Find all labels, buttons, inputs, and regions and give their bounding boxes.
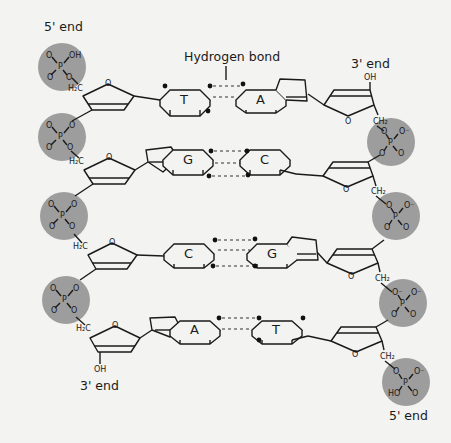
svg-text:T: T — [271, 322, 280, 337]
svg-text:O: O — [410, 310, 416, 319]
base-adenine-4: A — [150, 316, 221, 344]
phosphate-group-right-3: O⁻ O⁻ P O O — [379, 279, 427, 327]
svg-text:O: O — [343, 185, 349, 194]
svg-text:A: A — [256, 92, 265, 107]
svg-text:CH₂: CH₂ — [380, 352, 395, 361]
svg-text:O: O — [69, 121, 75, 130]
phosphate-group-left-4: O O P O O — [42, 276, 90, 324]
sugar-right-3: O CH₂ — [316, 240, 392, 292]
svg-text:H₂C: H₂C — [73, 242, 88, 251]
svg-text:P: P — [393, 212, 398, 221]
svg-text:O: O — [352, 350, 358, 359]
base-pair-4: A T — [150, 316, 308, 344]
svg-text:CH₂: CH₂ — [375, 274, 390, 283]
svg-text:O: O — [348, 272, 354, 281]
svg-text:O⁻: O⁻ — [392, 288, 403, 297]
label-3-prime-end-top-right: 3' end — [351, 56, 390, 71]
svg-text:P: P — [388, 138, 393, 147]
label-5-prime-end-top-left: 5' end — [44, 19, 83, 34]
svg-text:O: O — [67, 143, 73, 152]
svg-text:H₂C: H₂C — [68, 84, 83, 93]
sugar-left-2: H₂C O — [69, 151, 148, 196]
base-cytosine-3: C — [164, 238, 217, 269]
svg-text:P: P — [58, 132, 63, 141]
svg-text:O: O — [46, 51, 52, 60]
svg-text:O: O — [109, 238, 115, 247]
svg-text:O⁻: O⁻ — [414, 367, 425, 376]
svg-text:OH: OH — [94, 365, 106, 374]
svg-text:C: C — [260, 152, 269, 167]
svg-text:O: O — [46, 121, 52, 130]
svg-text:O: O — [112, 321, 118, 330]
svg-text:O: O — [48, 200, 54, 209]
base-thymine-1: T — [160, 84, 212, 116]
base-pair-3: C G — [164, 237, 318, 269]
svg-text:HO: HO — [388, 389, 400, 398]
svg-text:G: G — [267, 246, 277, 261]
label-hydrogen-bond: Hydrogen bond — [184, 49, 280, 64]
svg-text:A: A — [190, 322, 199, 337]
sugar-right-1: O OH CH₂ — [308, 73, 388, 131]
svg-text:CH₂: CH₂ — [373, 117, 388, 126]
svg-text:O: O — [345, 117, 351, 126]
base-thymine-4: T — [252, 316, 308, 344]
svg-text:CH₂: CH₂ — [371, 187, 386, 196]
sugar-left-3: H₂C O — [73, 234, 164, 280]
svg-text:O: O — [403, 223, 409, 232]
sugar-left-4: H₂C O OH — [76, 317, 152, 374]
svg-text:G: G — [183, 152, 193, 167]
phosphate-group-left-2: O O P O O — [38, 113, 86, 161]
svg-text:H₂C: H₂C — [69, 157, 84, 166]
label-3-prime-end-bottom-left: 3' end — [80, 378, 119, 393]
svg-text:O: O — [71, 306, 77, 315]
base-adenine-1: A — [236, 79, 307, 113]
base-cytosine-2: C — [240, 149, 296, 178]
svg-text:O: O — [106, 153, 112, 162]
base-pair-1: T A — [160, 79, 307, 116]
svg-text:P: P — [403, 378, 408, 387]
dna-diagram: O OH P O O O O P O O O O P O O O O P — [0, 0, 451, 443]
svg-text:H₂C: H₂C — [76, 324, 91, 333]
svg-text:C: C — [184, 246, 193, 261]
svg-text:T: T — [179, 92, 188, 107]
label-5-prime-end-bottom-right: 5' end — [389, 408, 428, 423]
svg-text:O⁻: O⁻ — [411, 288, 422, 297]
sugar-left-1: H₂C O — [68, 78, 160, 121]
svg-text:OH: OH — [364, 73, 376, 82]
sugar-right-4: O CH₂ — [308, 320, 395, 369]
svg-text:P: P — [400, 299, 405, 308]
svg-text:O: O — [412, 389, 418, 398]
svg-text:O: O — [50, 284, 56, 293]
sugar-right-2: O CH₂ — [296, 155, 386, 204]
svg-text:O: O — [73, 284, 79, 293]
base-guanine-3: G — [247, 237, 318, 269]
svg-text:OH: OH — [69, 51, 81, 60]
svg-text:O: O — [69, 222, 75, 231]
svg-text:O: O — [398, 149, 404, 158]
svg-text:P: P — [60, 211, 65, 220]
base-pair-2: G C — [146, 147, 296, 178]
svg-text:O⁻: O⁻ — [399, 127, 410, 136]
phosphate-group-left-3: O O P O O — [40, 192, 88, 240]
svg-text:O: O — [71, 200, 77, 209]
base-guanine-2: G — [146, 147, 213, 178]
svg-text:O⁻: O⁻ — [404, 201, 415, 210]
svg-text:P: P — [58, 62, 63, 71]
svg-text:P: P — [62, 295, 67, 304]
svg-text:O: O — [105, 79, 111, 88]
